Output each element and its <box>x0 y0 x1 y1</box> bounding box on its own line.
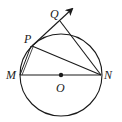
label-p: P <box>23 32 32 46</box>
chord-mp-1 <box>20 46 31 75</box>
label-m: M <box>5 68 17 82</box>
label-n: N <box>103 68 113 82</box>
center-point-o <box>59 73 63 77</box>
label-q: Q <box>50 7 59 21</box>
geometry-diagram: Q P M O N <box>0 0 122 122</box>
label-o: O <box>56 81 65 95</box>
